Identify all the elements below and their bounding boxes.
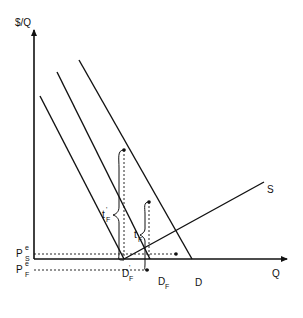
demand-curve-d-f-prime bbox=[40, 96, 124, 259]
wedge-label-t-f: t bbox=[134, 229, 137, 240]
curve-label-d-f-prime-sub: F bbox=[129, 275, 133, 282]
curve-label-d: D bbox=[195, 277, 202, 288]
x-axis-label: Q bbox=[272, 268, 280, 279]
price-label-pf-sup: e bbox=[25, 260, 29, 267]
price-label-pf: P bbox=[16, 264, 23, 275]
brace-t-f-prime bbox=[113, 150, 124, 260]
wedge-label-t-f-prime-sub: F bbox=[106, 216, 110, 223]
curve-label-d-f-sub: F bbox=[165, 283, 169, 290]
supply-demand-diagram: $/Q Q P e S P e F t ' F t F D ' F D F D … bbox=[0, 0, 303, 318]
wedge-label-t-f-prime: t bbox=[102, 209, 105, 220]
wedge-label-t-f-sub: F bbox=[138, 236, 142, 243]
price-label-ps: P bbox=[16, 248, 23, 259]
curve-label-s: S bbox=[267, 184, 274, 195]
price-label-ps-sup: e bbox=[25, 244, 29, 251]
y-axis-label: $/Q bbox=[15, 17, 31, 28]
price-label-pf-sub: F bbox=[25, 271, 29, 278]
wedge-label-t-f-prime-mark: ' bbox=[106, 206, 107, 213]
curve-label-d-f-prime-mark: ' bbox=[129, 264, 130, 271]
point-equilibrium-s-d bbox=[174, 252, 178, 256]
